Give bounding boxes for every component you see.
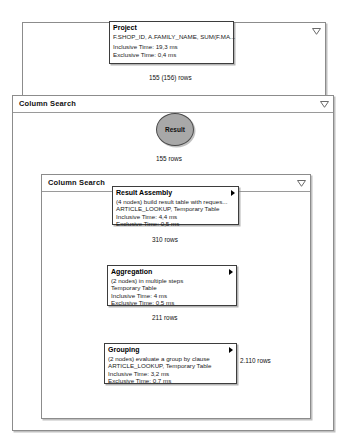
edge-label-aggregation: 211 rows [151,314,178,321]
plan-canvas: Column Search Column Search Project F.SH… [0,0,350,439]
plan-node-result-assembly[interactable]: Result Assembly (4 nodes) build result t… [112,186,239,225]
container-title-outer: Column Search [19,99,76,108]
node-detail: (2 nodes) in multiple steps [111,277,233,285]
edge-label-result: 155 rows [155,155,183,162]
node-detail-secondary: Temporary Table [111,284,233,292]
plan-node-grouping[interactable]: Grouping (2 nodes) evaluate a group by c… [104,343,237,384]
node-title: Grouping [108,346,233,355]
chevron-down-icon[interactable] [297,180,306,187]
edge-label-project: 155 (156) rows [148,74,193,81]
node-inclusive-time: Inclusive Time: 19,3 ms [113,43,230,51]
node-inclusive-time: Inclusive Time: 4,4 ms [116,213,235,221]
node-detail: (4 nodes) build result table with reques… [116,198,235,206]
edge-label-grouping: 2.110 rows [239,357,272,364]
expand-triangle-icon[interactable] [231,190,235,196]
chevron-down-icon[interactable] [312,28,321,35]
node-inclusive-time: Inclusive Time: 4 ms [111,292,233,300]
node-exclusive-time: Exclusive Time: 0,7 ms [108,377,233,385]
node-title: Result Assembly [116,189,235,198]
node-title: Aggregation [111,268,233,277]
node-title: Project [113,24,230,33]
chevron-down-icon[interactable] [320,101,329,108]
node-exclusive-time: Exclusive Time: 0,5 ms [111,299,233,307]
plan-node-aggregation[interactable]: Aggregation (2 nodes) in multiple steps … [107,265,237,306]
node-inclusive-time: Inclusive Time: 3,2 ms [108,370,233,378]
plan-node-project[interactable]: Project F.SHOP_ID, A.FAMILY_NAME, SUM(F.… [109,21,234,64]
container-title-inner: Column Search [48,178,105,187]
node-detail-secondary: ARTICLE_LOOKUP, Temporary Table [116,205,235,213]
plan-node-result[interactable]: Result [156,113,194,146]
node-title: Result [165,126,185,133]
node-exclusive-time: Exclusive Time: 0,4 ms [113,51,230,59]
node-detail: F.SHOP_ID, A.FAMILY_NAME, SUM(F.MA... [113,33,230,41]
node-detail: (2 nodes) evaluate a group by clause [108,355,233,363]
expand-triangle-icon[interactable] [229,347,233,353]
edge-label-result-assembly: 310 rows [151,236,179,243]
node-exclusive-time: Exclusive Time: 0,5 ms [116,220,235,228]
node-detail-secondary: ARTICLE_LOOKUP, Temporary Table [108,362,233,370]
expand-triangle-icon[interactable] [229,269,233,275]
